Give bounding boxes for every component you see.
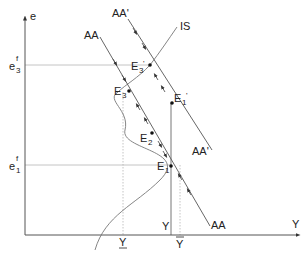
svg-text:': ' — [143, 59, 145, 68]
svg-text:3: 3 — [122, 91, 127, 100]
y-axis-label: e — [30, 10, 36, 22]
svg-text:E: E — [174, 92, 181, 104]
svg-text:e: e — [9, 60, 15, 72]
e3-tick-label: e f 3 — [9, 54, 21, 75]
e3-prime-label: E 3 ' — [131, 59, 145, 75]
svg-text:e: e — [9, 160, 15, 172]
point-e2 — [150, 131, 154, 135]
aa-label-bottom: AA — [211, 219, 226, 231]
aa-label-top: AA — [84, 29, 99, 41]
svg-text:Y: Y — [119, 236, 127, 248]
point-e3-prime — [148, 63, 152, 67]
svg-text:f: f — [16, 54, 19, 63]
svg-text:E: E — [140, 132, 147, 144]
point-e1 — [169, 164, 173, 168]
svg-text:1: 1 — [165, 166, 170, 175]
point-e3 — [127, 89, 131, 93]
aa-prime-line — [128, 19, 212, 150]
e1-prime-label: E 1 ' — [174, 91, 188, 107]
is-label: IS — [180, 20, 190, 32]
svg-text:E: E — [131, 60, 138, 72]
svg-text:f: f — [16, 154, 19, 163]
y-tilde-label: Y — [176, 237, 184, 250]
ad-is-diagram: e Y e f 3 e f 1 Y Y Y AA AA AA' AA' IS E… — [0, 0, 308, 253]
e3-label: E 3 — [114, 85, 127, 100]
svg-text:3: 3 — [16, 66, 21, 75]
y-plain-label: Y — [162, 220, 170, 232]
svg-text:Y: Y — [176, 238, 184, 250]
svg-text:2: 2 — [148, 138, 153, 147]
x-axis-label: Y — [292, 218, 300, 230]
axes — [25, 18, 298, 235]
svg-text:1: 1 — [16, 166, 21, 175]
e1-tick-label: e f 1 — [9, 154, 21, 175]
svg-text:E: E — [157, 160, 164, 172]
e1-label: E 1 — [157, 160, 170, 175]
aa-prime-label-bottom: AA' — [192, 145, 209, 157]
svg-text:E: E — [114, 85, 121, 97]
svg-text:': ' — [186, 91, 188, 100]
aa-prime-label-top: AA' — [112, 7, 129, 19]
y-underbar-label: Y — [119, 236, 127, 248]
guide-lines — [25, 65, 180, 235]
aa-line — [100, 37, 210, 226]
